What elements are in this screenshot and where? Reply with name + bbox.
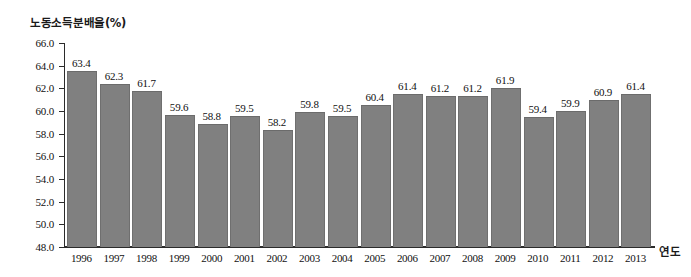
bar-slot: 63.4: [65, 43, 98, 247]
bar: [393, 94, 423, 247]
bar-value-label: 59.9: [561, 97, 579, 109]
y-tick-label: 64.0: [36, 60, 54, 72]
bar-value-label: 60.9: [594, 86, 612, 98]
bar: [524, 117, 554, 247]
y-tick-label: 50.0: [36, 218, 54, 230]
bar-value-label: 59.8: [300, 98, 318, 110]
x-tick-label: 1996: [65, 252, 98, 264]
bar: [263, 130, 293, 247]
bar: [132, 91, 162, 247]
y-tick-mark: [59, 66, 64, 67]
bar-slot: 59.9: [554, 43, 587, 247]
bar-slot: 62.3: [98, 43, 131, 247]
y-tick-mark: [59, 156, 64, 157]
bar-value-label: 59.6: [170, 101, 188, 113]
y-tick-mark: [59, 111, 64, 112]
bar-slot: 58.2: [261, 43, 294, 247]
y-tick-label: 56.0: [36, 150, 54, 162]
x-tick-label: 2008: [456, 252, 489, 264]
x-axis-labels: 1996199719981999200020012002200320042005…: [65, 252, 652, 270]
y-tick-mark: [59, 88, 64, 89]
bar-slot: 59.8: [293, 43, 326, 247]
y-axis-title: 노동소득분배율(%): [30, 14, 126, 30]
bar-value-label: 61.9: [496, 74, 514, 86]
bar-value-label: 60.4: [365, 91, 383, 103]
y-tick-label: 60.0: [36, 105, 54, 117]
x-tick-label: 2010: [521, 252, 554, 264]
bar: [589, 100, 619, 247]
x-tick-label: 2007: [424, 252, 457, 264]
bar-value-label: 58.8: [202, 110, 220, 122]
bar: [230, 116, 260, 247]
bar-slot: 61.4: [391, 43, 424, 247]
bar-slot: 58.8: [195, 43, 228, 247]
y-tick-label: 54.0: [36, 173, 54, 185]
bar: [621, 94, 651, 247]
y-tick-label: 48.0: [36, 241, 54, 253]
x-tick-label: 1999: [163, 252, 196, 264]
bar-value-label: 63.4: [72, 57, 90, 69]
x-tick-label: 2001: [228, 252, 261, 264]
bar-slot: 59.4: [521, 43, 554, 247]
bar: [491, 88, 521, 247]
bar-slot: 59.6: [163, 43, 196, 247]
bar-slot: 61.2: [456, 43, 489, 247]
y-tick-label: 52.0: [36, 196, 54, 208]
x-tick-label: 2003: [293, 252, 326, 264]
x-tick-label: 2002: [261, 252, 294, 264]
bar: [67, 71, 97, 247]
x-tick-label: 2000: [195, 252, 228, 264]
y-tick-mark: [59, 247, 64, 248]
bar-value-label: 61.2: [463, 82, 481, 94]
y-tick-mark: [59, 224, 64, 225]
y-tick-mark: [59, 43, 64, 44]
y-tick-label: 62.0: [36, 82, 54, 94]
bar-slot: 61.9: [489, 43, 522, 247]
bars-layer: 63.462.361.759.658.859.558.259.859.560.4…: [65, 43, 652, 247]
bar: [100, 84, 130, 247]
bar: [361, 105, 391, 247]
x-tick-label: 1997: [98, 252, 131, 264]
bar-value-label: 61.2: [431, 82, 449, 94]
bar: [165, 115, 195, 247]
x-tick-label: 2004: [326, 252, 359, 264]
bar-slot: 60.9: [587, 43, 620, 247]
y-tick-mark: [59, 202, 64, 203]
bar: [426, 96, 456, 247]
x-tick-label: 1998: [130, 252, 163, 264]
y-tick-label: 66.0: [36, 37, 54, 49]
x-tick-label: 2013: [619, 252, 652, 264]
bar-slot: 59.5: [228, 43, 261, 247]
bar: [556, 111, 586, 247]
x-tick-label: 2012: [587, 252, 620, 264]
x-tick-label: 2011: [554, 252, 587, 264]
labor-income-share-bar-chart: 노동소득분배율(%) 66.064.062.060.058.056.054.05…: [0, 0, 691, 277]
y-tick-mark: [59, 179, 64, 180]
y-tick-mark: [59, 134, 64, 135]
x-axis-title: 연도: [659, 243, 681, 259]
plot-area: 66.064.062.060.058.056.054.052.050.048.0…: [64, 43, 652, 247]
bar-value-label: 62.3: [105, 70, 123, 82]
x-tick-label: 2005: [358, 252, 391, 264]
bar-slot: 61.7: [130, 43, 163, 247]
bar-value-label: 61.4: [398, 80, 416, 92]
bar-value-label: 61.7: [137, 77, 155, 89]
bar-value-label: 58.2: [268, 116, 286, 128]
bar: [295, 112, 325, 247]
bar-slot: 61.4: [619, 43, 652, 247]
bar-value-label: 59.5: [235, 102, 253, 114]
bar: [198, 124, 228, 247]
bar-value-label: 59.5: [333, 102, 351, 114]
bar-slot: 61.2: [424, 43, 457, 247]
x-tick-label: 2006: [391, 252, 424, 264]
bar: [458, 96, 488, 247]
bar-value-label: 59.4: [528, 103, 546, 115]
x-tick-label: 2009: [489, 252, 522, 264]
bar-slot: 59.5: [326, 43, 359, 247]
bar: [328, 116, 358, 247]
y-tick-label: 58.0: [36, 128, 54, 140]
bar-value-label: 61.4: [626, 80, 644, 92]
bar-slot: 60.4: [358, 43, 391, 247]
